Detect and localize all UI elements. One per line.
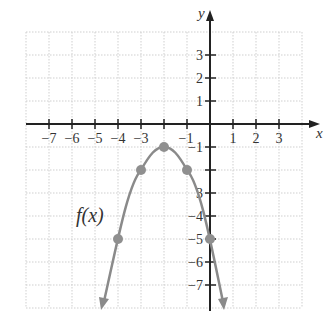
y-axis-arrow-icon	[206, 10, 214, 21]
y-tick-label: −7	[188, 278, 203, 293]
function-label-text: f(x)	[76, 204, 104, 227]
function-label: f(x)	[76, 204, 104, 227]
y-tick-label: 3	[196, 48, 203, 63]
y-tick-label: −1	[188, 140, 203, 155]
grid	[26, 32, 302, 308]
data-point	[136, 165, 146, 175]
data-point	[159, 142, 169, 152]
x-tick-label: −5	[88, 131, 103, 146]
y-tick-label: −6	[188, 255, 203, 270]
x-tick-label: −6	[65, 131, 80, 146]
x-tick-label: 2	[253, 131, 260, 146]
x-tick-label: −7	[42, 131, 57, 146]
data-point	[113, 234, 123, 244]
data-point	[205, 234, 215, 244]
y-axis-label: y	[196, 5, 205, 21]
data-point	[182, 165, 192, 175]
x-tick-label: −4	[111, 131, 126, 146]
x-axis	[26, 120, 320, 128]
y-tick-label: 2	[196, 71, 203, 86]
parabola-chart: −7 −6 −5 −4 −3 −1 1 2 3 3 2 1 −1 3 −4 −5…	[0, 0, 327, 331]
x-tick-label: 1	[230, 131, 237, 146]
x-tick-label: 3	[276, 131, 283, 146]
x-tick-label: −3	[134, 131, 149, 146]
y-tick-label: −4	[188, 209, 203, 224]
x-axis-label: x	[315, 125, 323, 141]
y-tick-label: −5	[188, 232, 203, 247]
y-tick-label: 1	[196, 94, 203, 109]
